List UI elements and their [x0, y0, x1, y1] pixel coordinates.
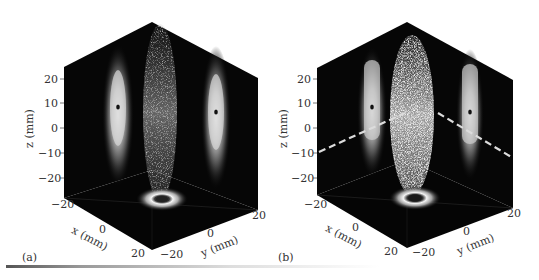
x-tick: −20 — [304, 199, 327, 210]
panel-b: 20 10 0 −10 −20 z (mm) −20 0 20 x (mm) −… — [270, 0, 539, 262]
z-tick: −20 — [38, 173, 61, 184]
z-tick: 10 — [297, 98, 311, 109]
z-tick: −10 — [38, 148, 61, 159]
z-tick: 20 — [297, 74, 311, 85]
z-axis-label: z (mm) — [277, 109, 290, 148]
x-tick: −20 — [51, 199, 74, 210]
bottom-divider — [6, 265, 379, 268]
z-tick: 0 — [304, 123, 311, 134]
y-tick: 0 — [207, 228, 214, 239]
z-tick: 0 — [51, 123, 58, 134]
x-tick: 20 — [384, 246, 398, 257]
x-tick: 0 — [352, 222, 359, 233]
z-axis-label: z (mm) — [23, 109, 36, 148]
z-tick: −10 — [291, 148, 314, 159]
y-tick: −20 — [160, 249, 183, 260]
z-tick: 10 — [44, 98, 58, 109]
panel-a-plot — [0, 0, 270, 262]
y-tick: 0 — [463, 226, 470, 237]
x-tick: 0 — [99, 224, 106, 235]
y-tick: −20 — [412, 247, 435, 258]
z-tick: −20 — [291, 173, 314, 184]
y-tick: 20 — [252, 210, 266, 221]
z-tick: 20 — [44, 74, 58, 85]
panel-label-a: (a) — [22, 251, 37, 264]
x-tick: 20 — [131, 248, 145, 259]
panel-a: 20 10 0 −10 −20 z (mm) −20 0 20 x (mm) −… — [0, 0, 270, 262]
panel-label-b: (b) — [278, 251, 294, 264]
y-tick: 20 — [507, 208, 521, 219]
